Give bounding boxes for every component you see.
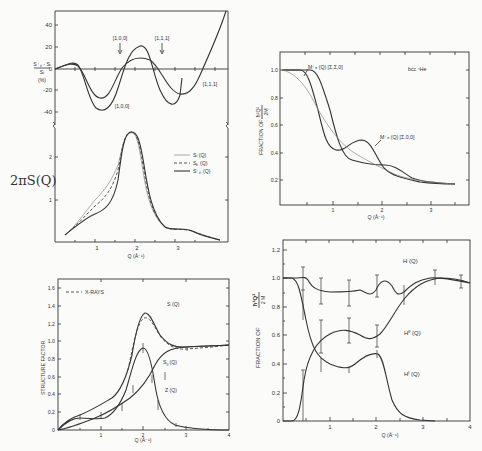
y-axis-label: FRACTION OF <box>258 120 264 155</box>
y-tick-label: 0.4 <box>272 361 281 367</box>
error-bars <box>301 267 463 421</box>
curve-s-p-plus <box>65 132 220 240</box>
y-tick-label: 0.2 <box>48 409 55 415</box>
y-axis-label-frac-den: 2M <box>263 108 269 115</box>
y-tick-label: 40 <box>45 22 52 28</box>
x-tick-label: 4 <box>468 424 472 430</box>
x-tick-label: 3 <box>430 207 433 213</box>
panel-top-left-upper: 40 20 0 -20 -40 S⁺ₚ - Sᵢ Sᵢ (%) [1,0,0] … <box>33 11 228 128</box>
y-tick-label: 1 <box>49 197 52 203</box>
panel-bottom-left: 1 2 3 4 Q (Å⁻¹) 1.6 1.4 1.2 1.0 0.8 0.6 … <box>40 279 231 443</box>
y-axis-label-frac-num: ħ²Q² <box>252 294 258 306</box>
x-axis-label: Q (Å⁻¹) <box>381 432 398 438</box>
curve-h-q <box>283 278 470 295</box>
y-tick-label: 0.8 <box>271 95 278 101</box>
y-axis-label-2pi-s: 2πS(Q) <box>10 173 57 188</box>
x-axis-label: Q (Å⁻¹) <box>367 214 384 220</box>
annotation-1-1-1-bottom: [1,1,1] <box>203 81 218 87</box>
y-axis-label-unit: (%) <box>38 77 46 83</box>
y-tick-label: 0.2 <box>272 390 281 396</box>
y-tick-label: 0.6 <box>272 332 281 338</box>
y-axis-label-denominator: Sᵢ <box>40 69 44 75</box>
x-tick-label: 4 <box>228 432 231 438</box>
x-tick-label: 1 <box>100 432 103 438</box>
y-axis-label: FRACTION OF <box>255 327 261 368</box>
y-axis-label-frac-den: 2 M <box>260 296 266 305</box>
annotation-s-ii: SII(Q) <box>163 359 177 367</box>
curve-s-p <box>65 132 220 240</box>
y-tick-label: 0 <box>277 418 281 424</box>
x-axis-label: Q (Å⁻¹) <box>127 253 144 259</box>
y-tick-label: 0 <box>52 427 55 433</box>
y-tick-label: 1.4 <box>48 303 55 309</box>
x-tick-label: 3 <box>185 432 188 438</box>
x-tick-label: 2 <box>135 245 139 251</box>
y-tick-label: 0.4 <box>48 391 55 397</box>
y-axis-label: STRUCTURE FACTOR <box>40 340 46 395</box>
legend-label-x-rays: X-RAYS <box>85 289 104 295</box>
y-tick-label: 0.6 <box>48 374 55 380</box>
legend-top-left: Sᵢ (Q) Sₚ (Q) S⁺ₚ (Q) <box>174 152 211 174</box>
x-tick-label: 3 <box>421 424 425 430</box>
annotation-h-q: H (Q) <box>403 258 418 264</box>
y-axis-label-numerator: S⁺ₚ - Sᵢ <box>33 61 51 67</box>
curve-1-0-0 <box>55 46 182 110</box>
y-tick-label: -40 <box>43 109 52 115</box>
y-tick-label: -20 <box>43 87 52 93</box>
annotation-s-q: S (Q) <box>167 301 180 307</box>
curve-s-i <box>65 133 220 240</box>
x-axis-label: Q (Å⁻¹) <box>134 437 151 443</box>
annotation-sigma-0-0: M⁺ₑ (Q) [Σ,0,0] <box>380 134 415 140</box>
y-axis-label-frac-num: ħ²Q² <box>255 107 261 118</box>
panel-top-left-lower: 1 2 3 Q (Å⁻¹) 2 1 2πS(Q) Sᵢ (Q) Sₚ (Q) S… <box>10 128 228 259</box>
y-tick-label: 0.2 <box>271 177 278 183</box>
curve-1-1-1 <box>55 11 226 98</box>
y-tick-label: 1.2 <box>48 321 55 327</box>
y-tick-label: 0.8 <box>272 304 281 310</box>
panel-top-right: 1 2 3 Q (Å⁻¹) 1.0 0.8 0.6 0.4 0.2 FRACTI… <box>255 52 469 220</box>
y-tick-label: 0.4 <box>271 150 278 156</box>
y-tick-label: 2 <box>49 154 52 160</box>
curve-reference <box>282 70 455 184</box>
curve-sigma-0-0 <box>282 70 455 184</box>
annotation-h-i: Hᴵ (Q) <box>404 371 420 377</box>
annotation-sigma-sigma-0: M⁺ₑ (Q) [Σ,Σ,0] <box>308 64 343 70</box>
y-tick-label: 0.6 <box>271 122 278 128</box>
y-tick-label: 1.6 <box>48 285 55 291</box>
curve-sigma-sigma-0 <box>282 70 455 184</box>
x-tick-label: 1 <box>328 424 332 430</box>
y-tick-label: 1.0 <box>48 338 55 344</box>
figure-canvas: 40 20 0 -20 -40 S⁺ₚ - Sᵢ Sᵢ (%) [1,0,0] … <box>0 0 482 451</box>
annotation-1-1-1-top: [1,1,1] <box>155 35 170 41</box>
annotation-h-ii: Hᴵᴵ (Q) <box>404 330 421 336</box>
curve-h-ii <box>283 278 470 421</box>
y-tick-label: 1.0 <box>272 275 281 281</box>
y-tick-label: 1.0 <box>271 67 278 73</box>
x-tick-label: 1 <box>95 245 99 251</box>
chart-title: bcc ⁴He <box>408 66 426 72</box>
curve-s-q <box>58 313 229 430</box>
y-tick-label: 1.2 <box>272 247 281 253</box>
annotation-1-0-0-top: [1,0,0] <box>113 35 128 41</box>
curve-z-q <box>58 348 229 430</box>
curve-h-i <box>283 278 435 421</box>
x-tick-label: 2 <box>374 424 378 430</box>
x-tick-label: 1 <box>332 207 335 213</box>
legend-label: Sᵢ (Q) <box>193 152 206 158</box>
x-tick-label: 2 <box>381 207 384 213</box>
annotation-1-0-0-bottom: [1,0,0] <box>115 103 130 109</box>
curve-s-ii <box>58 345 229 430</box>
legend-label: Sₚ (Q) <box>193 160 208 166</box>
panel-bottom-right: 1 2 3 4 Q (Å⁻¹) 1.2 1.0 0.8 0.6 0.4 0.2 … <box>252 240 472 438</box>
y-tick-label: 20 <box>45 44 52 50</box>
legend-label: S⁺ₚ (Q) <box>193 168 211 174</box>
x-tick-label: 3 <box>176 245 180 251</box>
annotation-z-q: Z (Q) <box>165 387 177 393</box>
y-tick-label: 0.8 <box>48 356 55 362</box>
error-bars <box>80 343 187 427</box>
